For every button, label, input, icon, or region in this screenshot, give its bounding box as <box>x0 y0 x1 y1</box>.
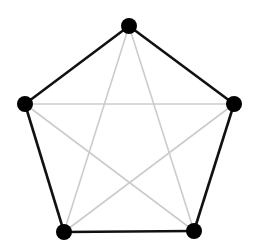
inner-edge-top-bottom-left <box>64 26 129 232</box>
node-right <box>226 96 242 112</box>
nodes <box>17 18 242 240</box>
outer-edge-bottom-left-left <box>25 104 64 232</box>
inner-edge-left-bottom-right <box>25 104 194 231</box>
node-top <box>121 18 137 34</box>
node-left <box>17 96 33 112</box>
outer-edge-left-top <box>25 26 129 104</box>
inner-edge-right-bottom-left <box>64 104 234 232</box>
node-bottom-left <box>56 224 72 240</box>
outer-edge-bottom-right-bottom-left <box>64 231 194 232</box>
outer-edge-top-right <box>129 26 234 104</box>
outer-edge-right-bottom-right <box>194 104 234 231</box>
inner-edge-top-bottom-right <box>129 26 194 231</box>
outer-edges <box>25 26 234 232</box>
node-bottom-right <box>186 223 202 239</box>
complete-graph-diagram <box>0 0 257 251</box>
